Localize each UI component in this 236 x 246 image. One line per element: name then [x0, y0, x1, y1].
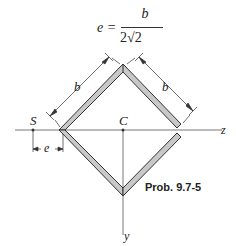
centroid-point: [122, 129, 125, 132]
label-shear-center: S: [30, 114, 37, 127]
label-e-dim: e: [44, 142, 49, 154]
label-centroid: C: [119, 114, 128, 127]
label-b-right: b: [162, 80, 169, 93]
dimension-b-left: [46, 53, 120, 127]
label-y-axis: y: [124, 230, 129, 242]
problem-caption: Prob. 9.7-5: [145, 181, 201, 193]
wall-lower-left: [59, 130, 123, 196]
label-z-axis: z: [221, 124, 226, 136]
wall-upper-right: [123, 64, 181, 128]
label-b-left: b: [74, 80, 81, 93]
